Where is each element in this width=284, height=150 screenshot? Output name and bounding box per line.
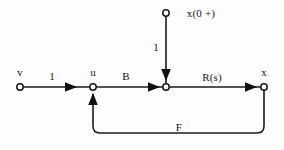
node-mid[interactable] bbox=[163, 84, 169, 90]
arrowhead-x-to-u-feedback bbox=[88, 93, 98, 105]
node-label-initial-condition: x(0 +) bbox=[187, 8, 215, 19]
node-init[interactable] bbox=[163, 10, 169, 16]
edge-label-mid-to-x: R(s) bbox=[202, 72, 222, 83]
node-u[interactable] bbox=[90, 84, 96, 90]
arrowhead-v-to-u bbox=[65, 82, 77, 92]
node-x[interactable] bbox=[261, 84, 267, 90]
edge-label-init-to-mid: 1 bbox=[153, 42, 159, 53]
arrowhead-u-to-mid bbox=[148, 82, 160, 92]
edge-label-u-to-mid: B bbox=[122, 71, 130, 82]
diagram-canvas bbox=[0, 0, 284, 150]
edge-label-v-to-u: 1 bbox=[49, 71, 55, 82]
arrowhead-mid-to-x bbox=[245, 82, 257, 92]
arrowhead-init-to-mid bbox=[161, 69, 171, 81]
node-label-v: v bbox=[17, 67, 23, 78]
node-v[interactable] bbox=[17, 84, 23, 90]
signal-flow-graph-diagram: v u x x(0 +) 1 B 1 R(s) F bbox=[0, 0, 284, 150]
node-label-x: x bbox=[261, 67, 267, 78]
edge-label-feedback: F bbox=[176, 122, 182, 133]
node-label-u: u bbox=[90, 67, 96, 78]
